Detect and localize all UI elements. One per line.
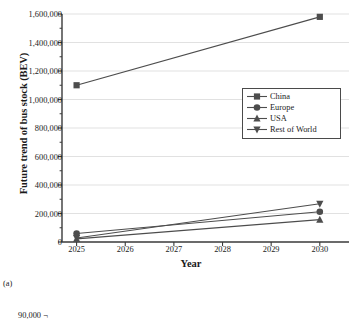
y-tick-label: 0 [4, 238, 62, 247]
figure-panel-a: Future trend of bus stock (BEV) 0200,000… [0, 0, 349, 324]
legend-item-europe[interactable]: Europe [246, 102, 337, 113]
y-tick-label: 600,000 [4, 152, 62, 161]
x-tick-label: 2028 [203, 245, 243, 254]
triangle-up-marker-icon [246, 113, 268, 124]
y-tick-label: 1,600,000 [4, 10, 62, 19]
legend-item-china[interactable]: China [246, 91, 337, 102]
y-axis-tick-labels: 0200,000400,000600,000800,0001,000,0001,… [0, 0, 62, 324]
x-tick-label: 2025 [57, 245, 97, 254]
x-axis-title: Year [60, 258, 322, 269]
x-tick-label: 2029 [251, 245, 291, 254]
figure-caption: (a) [3, 279, 12, 288]
x-tick-label: 2027 [154, 245, 194, 254]
legend-item-rest-of-world[interactable]: Rest of World [246, 124, 337, 135]
legend-label: Rest of World [268, 125, 317, 134]
y-tick-label: 1,200,000 [4, 67, 62, 76]
legend-label: Europe [268, 103, 294, 112]
y-tick-label: 400,000 [4, 181, 62, 190]
y-tick-label: 200,000 [4, 209, 62, 218]
series-usa [73, 216, 323, 242]
legend-label: USA [268, 114, 287, 123]
circle-marker-icon [246, 102, 268, 113]
next-figure-y-tick-label: 90,000 ¬ [18, 311, 48, 320]
series-china [73, 14, 322, 89]
chart-legend: ChinaEuropeUSARest of World [242, 88, 341, 139]
x-tick-label: 2026 [105, 245, 145, 254]
x-tick-label: 2030 [300, 245, 340, 254]
square-marker-icon [246, 91, 268, 102]
y-tick-label: 1,000,000 [4, 95, 62, 104]
legend-label: China [268, 92, 290, 101]
y-tick-label: 800,000 [4, 124, 62, 133]
y-tick-label: 1,400,000 [4, 38, 62, 47]
legend-item-usa[interactable]: USA [246, 113, 337, 124]
triangle-down-marker-icon [246, 124, 268, 135]
